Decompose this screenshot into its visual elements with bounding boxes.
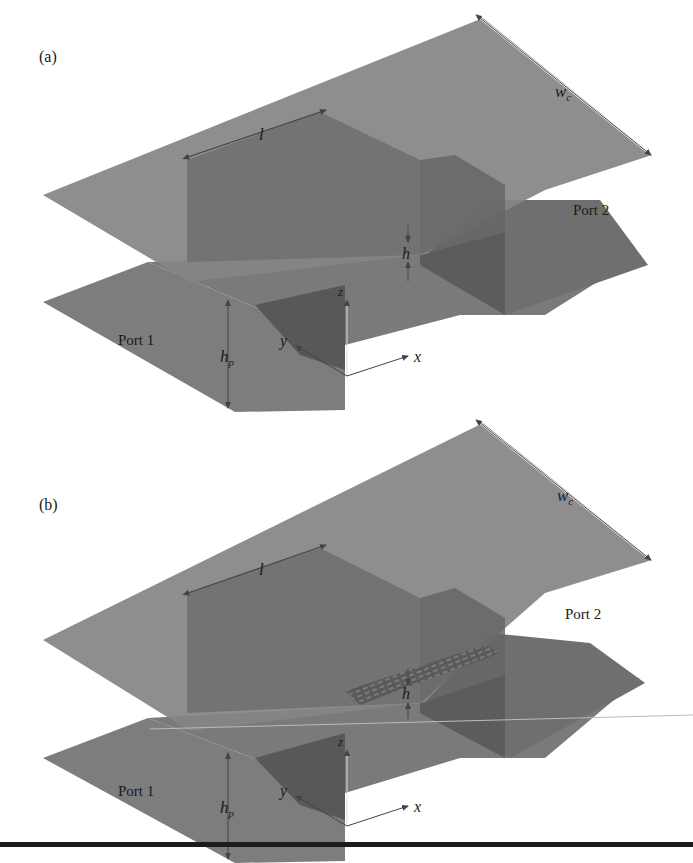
width-label: wc [557, 486, 573, 507]
panel-b: (b) l wc h hp Port 1 Port 2 z x [39, 423, 693, 863]
z-axis-label: z [337, 284, 343, 299]
bottom-rule [0, 842, 693, 847]
x-axis-label: x [413, 348, 421, 365]
port1-label: Port 1 [118, 783, 154, 799]
figure-canvas: (a) l wc h hp Port 1 Port 2 [0, 0, 693, 863]
y-axis-label: y [278, 782, 288, 800]
panel-b-label: (b) [39, 496, 58, 514]
gap-label: h [402, 685, 410, 702]
panel-a-label: (a) [39, 48, 57, 66]
width-label: wc [555, 82, 571, 103]
port1-label: Port 1 [118, 332, 154, 348]
port2-label: Port 2 [565, 606, 601, 622]
x-axis [347, 356, 408, 376]
length-label: l [259, 560, 264, 579]
port2-label: Port 2 [573, 202, 609, 218]
x-axis-label: x [413, 798, 421, 815]
panel-a: (a) l wc h hp Port 1 Port 2 [39, 18, 652, 412]
gap-label: h [402, 245, 410, 262]
y-axis-label: y [278, 332, 288, 350]
z-axis-label: z [337, 734, 343, 749]
length-label: l [259, 125, 264, 144]
x-axis [347, 806, 408, 826]
